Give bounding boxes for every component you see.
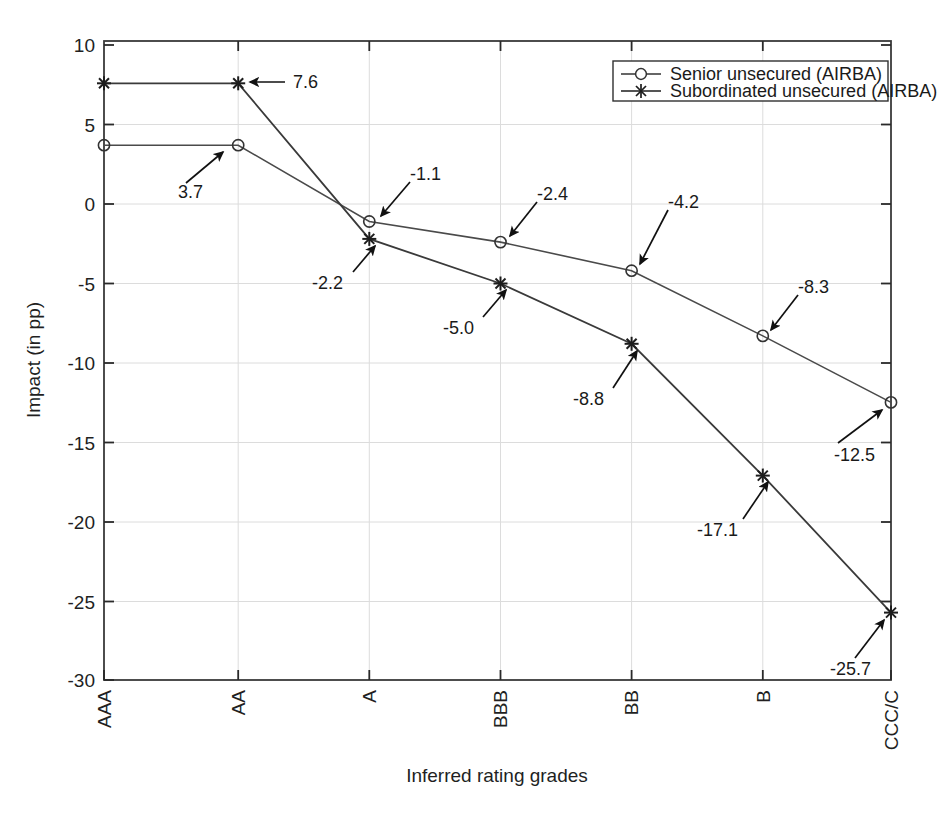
- data-point-marker: [756, 469, 770, 483]
- y-axis-title: Impact (in pp): [23, 302, 44, 418]
- y-tick-label: -10: [68, 353, 95, 374]
- data-point-marker: [625, 337, 639, 351]
- y-tick-label: -20: [68, 512, 95, 533]
- data-point-marker: [97, 76, 111, 90]
- x-tick-label-aa: AA: [228, 690, 249, 716]
- annotation-label: -17.1: [697, 520, 738, 540]
- x-tick-label-cccc: CCC/C: [881, 690, 902, 750]
- chart-legend[interactable]: Senior unsecured (AIRBA) Subordinated un…: [613, 61, 937, 101]
- y-tick-label: -5: [78, 274, 95, 295]
- legend-label-subordinated: Subordinated unsecured (AIRBA): [670, 81, 937, 101]
- annotation-label: -4.2: [668, 192, 699, 212]
- annotation-label: -5.0: [443, 318, 474, 338]
- annotation-label: -1.1: [410, 164, 441, 184]
- y-tick-label: -25: [68, 592, 95, 613]
- y-tick-label: -30: [68, 670, 95, 691]
- data-point-marker: [362, 232, 376, 246]
- annotation-label: -8.8: [573, 389, 604, 409]
- y-tick-label: -15: [68, 433, 95, 454]
- annotation-label: -2.4: [537, 184, 568, 204]
- data-point-marker: [494, 277, 508, 291]
- line-chart: 10 5 0 -5 -10 -15 -20 -25 -30 AAA AA A B…: [0, 0, 946, 817]
- data-point-marker: [884, 606, 898, 620]
- y-tick-label: 0: [84, 194, 95, 215]
- annotation-label: -12.5: [834, 445, 875, 465]
- annotation-label: 3.7: [178, 182, 203, 202]
- annotation-label: -8.3: [798, 277, 829, 297]
- x-axis-title: Inferred rating grades: [406, 765, 588, 786]
- annotation-label: -2.2: [312, 273, 343, 293]
- x-tick-label-b: B: [753, 690, 774, 703]
- annotation-label: 7.6: [293, 72, 318, 92]
- x-tick-label-a: A: [359, 690, 380, 703]
- x-tick-label-bbb: BBB: [490, 690, 511, 728]
- chart-background: [0, 0, 946, 817]
- annotation-label: -25.7: [830, 659, 871, 679]
- chart-container: 10 5 0 -5 -10 -15 -20 -25 -30 AAA AA A B…: [0, 0, 946, 817]
- x-tick-label-aaa: AAA: [94, 690, 115, 728]
- y-tick-label: 5: [84, 115, 95, 136]
- data-point-marker: [231, 76, 245, 90]
- y-tick-label: 10: [74, 35, 95, 56]
- x-tick-label-bb: BB: [621, 690, 642, 715]
